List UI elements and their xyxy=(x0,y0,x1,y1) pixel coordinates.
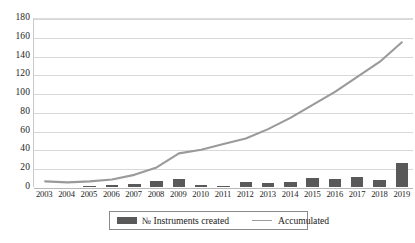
line-swatch-icon xyxy=(252,220,272,221)
x-axis-tick-label: 2005 xyxy=(81,189,98,199)
x-axis-tick-label: 2006 xyxy=(103,189,120,199)
x-axis: 2003200420052006200720082009201020112012… xyxy=(33,189,413,203)
y-axis-tick-label: 160 xyxy=(0,32,30,42)
y-axis-tick-label: 0 xyxy=(0,182,30,192)
y-axis-tick-label: 100 xyxy=(0,88,30,98)
chart-legend: № Instruments created Accumulated xyxy=(109,211,308,230)
x-axis-tick-label: 2007 xyxy=(125,189,142,199)
x-axis-tick-label: 2012 xyxy=(237,189,254,199)
x-axis-tick-label: 2008 xyxy=(148,189,165,199)
legend-item-accumulated: Accumulated xyxy=(252,216,329,226)
x-axis-tick-label: 2014 xyxy=(282,189,299,199)
accumulated-line-svg xyxy=(34,19,413,187)
x-axis-tick-label: 2019 xyxy=(394,189,411,199)
y-axis-tick-label: 140 xyxy=(0,51,30,61)
line-series-layer xyxy=(34,19,413,187)
y-axis-tick-label: 180 xyxy=(0,13,30,23)
bar-swatch-icon xyxy=(117,217,137,224)
legend-label-accumulated: Accumulated xyxy=(278,216,329,226)
legend-item-instruments-created: № Instruments created xyxy=(117,216,229,226)
y-axis-tick-label: 40 xyxy=(0,145,30,155)
accumulated-line-path xyxy=(45,42,402,182)
x-axis-tick-label: 2011 xyxy=(215,189,231,199)
x-axis-tick-label: 2003 xyxy=(36,189,53,199)
x-axis-tick-label: 2010 xyxy=(192,189,209,199)
plot-area xyxy=(33,18,413,187)
y-axis-tick-label: 80 xyxy=(0,107,30,117)
x-axis-tick-label: 2009 xyxy=(170,189,187,199)
x-axis-tick-label: 2013 xyxy=(259,189,276,199)
plot-wrapper: 180160140120100806040200 200320042005200… xyxy=(0,0,415,196)
y-axis-tick-label: 20 xyxy=(0,163,30,173)
x-axis-tick-label: 2015 xyxy=(304,189,321,199)
x-axis-tick-label: 2018 xyxy=(371,189,388,199)
y-axis: 180160140120100806040200 xyxy=(0,0,30,196)
combo-bar-line-chart: 180160140120100806040200 200320042005200… xyxy=(0,0,415,243)
y-axis-tick-label: 60 xyxy=(0,126,30,136)
x-axis-tick-label: 2004 xyxy=(58,189,75,199)
legend-label-instruments-created: № Instruments created xyxy=(142,216,229,226)
x-axis-tick-label: 2016 xyxy=(326,189,343,199)
y-axis-tick-label: 120 xyxy=(0,70,30,80)
x-axis-tick-label: 2017 xyxy=(349,189,366,199)
